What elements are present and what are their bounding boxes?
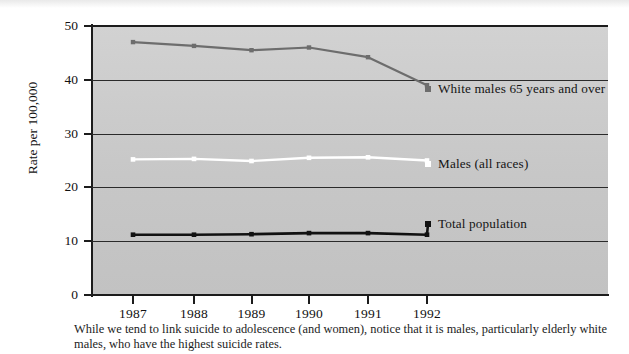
- figure-caption: While we tend to link suicide to adolesc…: [74, 322, 614, 352]
- x-tick-label-1988: 1988: [164, 306, 224, 322]
- plot-top-border: [92, 25, 608, 27]
- series-label-2: Total population: [438, 216, 527, 232]
- x-tick-mark-1990: [308, 296, 310, 304]
- x-axis-line: [84, 294, 609, 296]
- gridline-y-30: [92, 134, 608, 135]
- x-tick-label-1991: 1991: [338, 306, 398, 322]
- x-tick-mark-1991: [367, 296, 369, 304]
- page-edge-artifact: [0, 0, 629, 8]
- y-tick-mark-30: [84, 133, 91, 135]
- chart-figure: 01020304050 198719881989199019911992 Rat…: [0, 0, 629, 354]
- y-axis-line: [91, 24, 93, 297]
- x-tick-mark-1992: [426, 296, 428, 304]
- x-tick-label-1990: 1990: [279, 306, 339, 322]
- x-tick-mark-1988: [193, 296, 195, 304]
- y-tick-mark-10: [84, 240, 91, 242]
- x-tick-label-1987: 1987: [103, 306, 163, 322]
- y-tick-mark-0: [84, 294, 91, 296]
- y-tick-label-10: 10: [0, 233, 78, 249]
- x-tick-mark-1987: [132, 296, 134, 304]
- y-tick-mark-40: [84, 79, 91, 81]
- y-tick-label-0: 0: [0, 287, 78, 303]
- y-tick-label-50: 50: [0, 18, 78, 34]
- y-tick-mark-20: [84, 186, 91, 188]
- x-tick-label-1989: 1989: [222, 306, 282, 322]
- gridline-y-10: [92, 241, 608, 242]
- y-axis-title: Rate per 100,000: [25, 33, 41, 223]
- gridline-y-20: [92, 187, 608, 188]
- x-tick-label-1992: 1992: [397, 306, 457, 322]
- plot-background: [92, 26, 608, 295]
- plot-area: [92, 26, 608, 295]
- series-label-0: White males 65 years and over: [438, 81, 605, 97]
- series-label-1: Males (all races): [438, 156, 528, 172]
- y-tick-mark-50: [84, 25, 91, 27]
- x-tick-mark-1989: [251, 296, 253, 304]
